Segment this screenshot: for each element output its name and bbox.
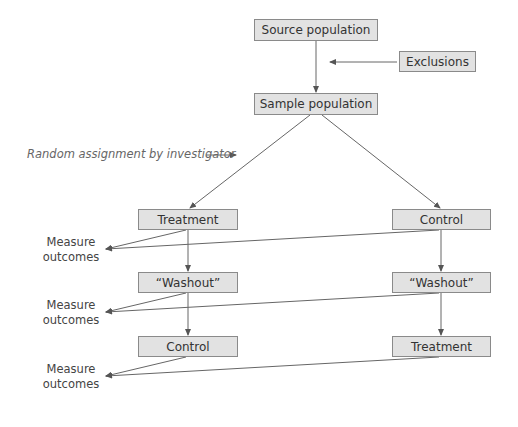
control-box-right: Control: [392, 209, 491, 230]
control-label-left: Control: [166, 340, 209, 354]
measure-outcomes-line2: outcomes: [40, 313, 102, 328]
washout-box-right: “Washout”: [392, 272, 491, 293]
measure-outcomes-label-3: Measure outcomes: [40, 362, 102, 392]
measure-outcomes-line1: Measure: [40, 298, 102, 313]
treatment-box-right: Treatment: [392, 336, 491, 357]
sample-population-box: Sample population: [254, 93, 378, 115]
random-assignment-annotation: Random assignment by investigator: [27, 147, 236, 161]
measure-outcomes-line2: outcomes: [40, 377, 102, 392]
exclusions-label: Exclusions: [406, 55, 469, 69]
sample-population-label: Sample population: [260, 97, 373, 111]
control-box-left: Control: [138, 336, 238, 357]
treatment-label-left: Treatment: [157, 213, 218, 227]
washout-box-left: “Washout”: [138, 272, 238, 293]
treatment-box-left: Treatment: [138, 209, 238, 230]
washout-label-left: “Washout”: [156, 276, 220, 290]
measure-outcomes-line1: Measure: [40, 235, 102, 250]
measure-outcomes-line1: Measure: [40, 362, 102, 377]
control-label-right: Control: [420, 213, 463, 227]
washout-label-right: “Washout”: [409, 276, 473, 290]
source-population-label: Source population: [262, 23, 371, 37]
source-population-box: Source population: [254, 19, 378, 41]
measure-outcomes-label-2: Measure outcomes: [40, 298, 102, 328]
treatment-label-right: Treatment: [411, 340, 472, 354]
exclusions-box: Exclusions: [399, 51, 476, 72]
measure-outcomes-line2: outcomes: [40, 250, 102, 265]
measure-outcomes-label-1: Measure outcomes: [40, 235, 102, 265]
